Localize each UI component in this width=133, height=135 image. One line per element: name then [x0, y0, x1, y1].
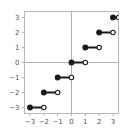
y-tick-label-5: 2	[15, 29, 19, 37]
segment-0-left-endpoint-marker	[28, 105, 33, 110]
segment-5-right-endpoint-marker	[111, 30, 115, 34]
x-tick-label-3: 0	[69, 118, 73, 126]
segment-1-left-endpoint-marker	[41, 90, 46, 95]
segment-5-left-endpoint-marker	[97, 30, 102, 35]
step-function-chart: −3−2−10123 −3−2−10123	[0, 0, 133, 135]
y-tick-label-0: −3	[9, 104, 19, 112]
segment-4-right-endpoint-marker	[97, 45, 101, 49]
segment-3-right-endpoint-marker	[83, 60, 87, 64]
segment-6-left-endpoint-marker	[111, 15, 116, 20]
x-tick-label-5: 2	[97, 118, 101, 126]
segment-1-right-endpoint-marker	[55, 90, 59, 94]
y-tick-label-6: 3	[15, 14, 19, 22]
y-tick-label-1: −2	[9, 89, 19, 97]
segment-3-left-endpoint-marker	[69, 60, 74, 65]
segment-2-right-endpoint-marker	[69, 75, 73, 79]
y-tick-label-3: 0	[15, 59, 19, 67]
x-tick-label-4: 1	[83, 118, 87, 126]
x-tick-label-1: −2	[39, 118, 49, 126]
y-tick-label-2: −1	[9, 74, 19, 82]
x-tick-label-2: −1	[53, 118, 63, 126]
segment-4-left-endpoint-marker	[83, 45, 88, 50]
x-tick-label-6: 3	[111, 118, 115, 126]
segment-0-right-endpoint-marker	[42, 105, 46, 109]
chart-figure: −3−2−10123 −3−2−10123	[0, 0, 133, 135]
segment-2-left-endpoint-marker	[55, 75, 60, 80]
x-tick-label-0: −3	[25, 118, 35, 126]
y-tick-label-4: 1	[15, 44, 19, 52]
